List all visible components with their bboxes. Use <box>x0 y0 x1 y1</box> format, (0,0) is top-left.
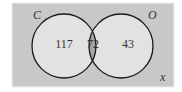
c-only-count: 117 <box>55 37 73 51</box>
set-o-label: O <box>148 8 157 22</box>
venn-diagram: C O x 117 72 43 <box>0 0 182 92</box>
o-only-count: 43 <box>122 37 134 51</box>
intersection-count: 72 <box>87 37 99 51</box>
set-c-label: C <box>33 8 42 22</box>
universe-label: x <box>159 70 166 84</box>
